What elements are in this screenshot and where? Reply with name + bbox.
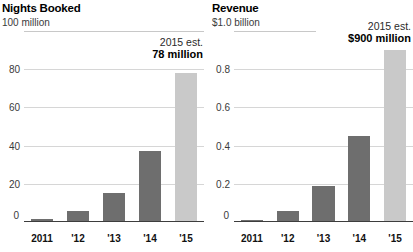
xlabel-rev-2013: '13 [306,233,342,244]
axis-baseline-revenue: 0 [234,221,413,222]
bar-slot-rev-2014 [341,31,377,222]
panel-revenue: Revenue $1.0 billion 2015 est. $900 mill… [206,0,413,252]
ytick-40: 40 [9,140,20,151]
ytick-rev-0: 0 [223,210,229,221]
xlabel-2015: '15 [168,233,204,244]
bar-2013 [103,193,125,222]
xlabel-2012: '12 [60,233,96,244]
axis-baseline-nights: 0 [24,221,204,222]
xlabel-rev-2011: 2011 [234,233,270,244]
xlabel-rev-2012: '12 [270,233,306,244]
ytick-0-8: 0.8 [216,64,230,75]
xlabel-2014: '14 [132,233,168,244]
xlabel-rev-2015: '15 [377,233,413,244]
panel-title-revenue: Revenue [212,2,259,14]
plot-area-revenue: 0.8 0.6 0.4 0.2 [234,31,413,222]
panel-nights-booked: Nights Booked 100 million 2015 est. 78 m… [0,0,206,252]
axis-unit-label-nights: 100 million [2,17,50,28]
ytick-80: 80 [9,64,20,75]
bar-slot-2011 [24,31,60,222]
ytick-60: 60 [9,102,20,113]
bar-2015-estimate [175,73,197,222]
bar-slot-2014 [132,31,168,222]
ytick-0-4: 0.4 [216,140,230,151]
bar-slot-rev-2013 [306,31,342,222]
ytick-20: 20 [9,178,20,189]
bar-rev-2014 [348,136,370,222]
xlabel-2011: 2011 [24,233,60,244]
bar-rev-2015-estimate [384,50,406,222]
ytick-0: 0 [13,210,19,221]
bar-slot-2015 [168,31,204,222]
bar-slot-2013 [96,31,132,222]
plot-area-nights: 80 60 40 20 [24,31,204,222]
chart-figure: Nights Booked 100 million 2015 est. 78 m… [0,0,413,252]
axis-unit-label-revenue: $1.0 billion [212,17,260,28]
bar-slot-rev-2011 [234,31,270,222]
x-axis-labels-nights: 2011 '12 '13 '14 '15 [24,233,204,244]
ytick-0-6: 0.6 [216,102,230,113]
x-axis-labels-revenue: 2011 '12 '13 '14 '15 [234,233,413,244]
bar-slot-rev-2015 [377,31,413,222]
panel-title-nights-booked: Nights Booked [2,2,81,14]
bar-group-revenue [234,31,413,222]
bar-slot-rev-2012 [270,31,306,222]
bar-slot-2012 [60,31,96,222]
bar-2014 [139,151,161,222]
ytick-0-2: 0.2 [216,178,230,189]
xlabel-rev-2014: '14 [341,233,377,244]
xlabel-2013: '13 [96,233,132,244]
bar-rev-2013 [312,186,334,222]
bar-group-nights [24,31,204,222]
